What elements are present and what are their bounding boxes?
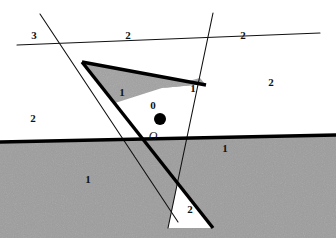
label-2-left-upper: 2 xyxy=(30,113,36,124)
label-1-lower-right: 1 xyxy=(222,143,228,154)
label-2-right-upper: 2 xyxy=(268,77,274,88)
origin-dot xyxy=(154,113,166,125)
origin-label: O xyxy=(149,130,158,142)
label-1-wedge-left: 1 xyxy=(119,87,125,98)
label-2-top-right: 2 xyxy=(240,30,246,41)
label-1-wedge-right: 1 xyxy=(190,83,196,94)
figure-container: 3 2 2 2 2 1 1 0 1 1 2 O xyxy=(0,0,336,238)
label-1-lower-left: 1 xyxy=(85,174,91,185)
label-0-center: 0 xyxy=(150,100,156,111)
label-3-upper-left: 3 xyxy=(31,30,37,41)
region-fill-main-lower xyxy=(0,135,336,238)
label-2-bottom: 2 xyxy=(187,204,193,215)
label-2-top-center: 2 xyxy=(125,30,131,41)
line-arrangement-diagram xyxy=(0,0,336,238)
